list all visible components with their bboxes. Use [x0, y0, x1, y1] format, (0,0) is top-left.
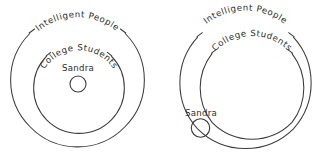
left-sandra-circle — [70, 76, 86, 92]
left-outer-label-text: Intelligent People — [33, 9, 121, 33]
left-diagram: Intelligent People College Students Sand… — [0, 0, 327, 163]
right-sandra-circle — [191, 119, 209, 137]
right-middle-label-text: College Students — [210, 28, 295, 53]
right-college-students-ring — [200, 50, 304, 140]
right-sandra-label: Sandra — [185, 108, 217, 118]
left-outer-label: Intelligent People — [33, 9, 121, 33]
figure-canvas: Intelligent People College Students Sand… — [0, 0, 327, 163]
right-outer-label: Intelligent People — [201, 2, 289, 25]
right-middle-label: College Students — [210, 28, 295, 53]
left-sandra-label: Sandra — [62, 63, 94, 73]
right-intelligent-people-ring — [180, 33, 311, 149]
right-outer-label-text: Intelligent People — [201, 2, 289, 25]
